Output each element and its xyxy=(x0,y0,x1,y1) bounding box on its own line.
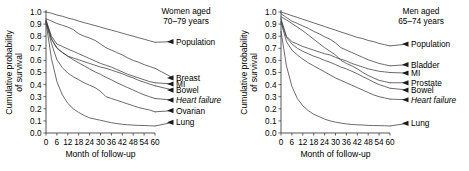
label-arrow-prostate xyxy=(402,80,409,85)
y-tick-label: 0.9 xyxy=(30,20,42,29)
x-tick-label: 36 xyxy=(342,138,352,147)
y-tick-label: 0.2 xyxy=(30,105,42,114)
y-tick-label: 0.7 xyxy=(265,44,277,53)
chart-panel-women: Women aged70–79 years0.00.10.20.30.40.50… xyxy=(0,0,234,171)
x-tick-label: 24 xyxy=(320,138,330,147)
x-tick-label: 12 xyxy=(63,138,73,147)
label-arrow-heart-failure xyxy=(402,97,409,102)
label-arrow-mi xyxy=(167,81,174,86)
survival-curve-heart-failure xyxy=(281,22,390,99)
chart-title-line2: 65–74 years xyxy=(398,16,444,26)
survival-curve-population xyxy=(281,12,390,46)
y-tick-label: 0.6 xyxy=(30,56,42,65)
x-tick-label: 42 xyxy=(353,138,363,147)
x-tick-label: 0 xyxy=(44,138,49,147)
survival-curve-bladder xyxy=(281,14,390,66)
label-arrow-population xyxy=(402,41,409,46)
y-tick-label: 0.5 xyxy=(30,68,42,77)
chart-svg-women: Women aged70–79 years0.00.10.20.30.40.50… xyxy=(0,0,234,171)
series-label-mi: MI xyxy=(411,68,420,78)
y-tick-label: 0.3 xyxy=(265,93,277,102)
x-tick-label: 6 xyxy=(55,138,60,147)
series-label-lung: Lung xyxy=(176,117,195,127)
series-label-lung: Lung xyxy=(411,118,430,128)
y-tick-label: 0.3 xyxy=(30,93,42,102)
x-axis-label: Month of follow-up xyxy=(65,149,135,159)
x-tick-label: 30 xyxy=(96,138,106,147)
series-label-ovarian: Ovarian xyxy=(176,106,205,116)
label-arrow-ovarian xyxy=(167,108,174,113)
label-arrow-lung xyxy=(167,120,174,125)
survival-curve-heart-failure xyxy=(46,20,155,98)
y-tick-label: 0.7 xyxy=(30,44,42,53)
y-axis-label-line2: of survival xyxy=(249,53,259,92)
x-tick-label: 48 xyxy=(129,138,139,147)
x-axis-label: Month of follow-up xyxy=(300,149,370,159)
x-tick-label: 12 xyxy=(298,138,308,147)
series-label-population: Population xyxy=(176,37,216,47)
chart-title-line1: Men aged xyxy=(403,6,440,16)
y-tick-label: 0.0 xyxy=(265,129,277,138)
x-tick-label: 54 xyxy=(140,138,150,147)
survival-curve-lung xyxy=(281,31,390,126)
chart-panel-men: Men aged65–74 years0.00.10.20.30.40.50.6… xyxy=(235,0,469,171)
series-label-population: Population xyxy=(411,39,451,49)
chart-title-line1: Women aged xyxy=(161,6,211,16)
y-tick-label: 0.9 xyxy=(265,20,277,29)
y-tick-label: 1.0 xyxy=(265,8,277,17)
y-tick-label: 1.0 xyxy=(30,8,42,17)
y-tick-label: 0.0 xyxy=(30,129,42,138)
survival-curve-bowel xyxy=(46,22,155,86)
x-tick-label: 36 xyxy=(107,138,117,147)
survival-curves-figure: Women aged70–79 years0.00.10.20.30.40.50… xyxy=(0,0,469,171)
y-axis-label-line2: of survival xyxy=(14,53,24,92)
x-tick-label: 18 xyxy=(74,138,84,147)
survival-curve-population xyxy=(46,12,155,42)
label-arrow-mi xyxy=(402,71,409,76)
y-axis-label-line1: Cumulative probability xyxy=(239,30,249,115)
axis-lines xyxy=(46,10,155,133)
series-label-bowel: Bowel xyxy=(411,85,434,95)
y-tick-label: 0.4 xyxy=(265,81,277,90)
x-tick-label: 30 xyxy=(331,138,341,147)
series-label-bowel: Bowel xyxy=(176,85,199,95)
survival-curve-prostate xyxy=(281,17,390,83)
x-tick-label: 60 xyxy=(150,138,160,147)
chart-title-line2: 70–79 years xyxy=(163,16,209,26)
x-tick-label: 0 xyxy=(279,138,284,147)
label-arrow-bowel xyxy=(402,87,409,92)
x-tick-label: 42 xyxy=(118,138,128,147)
series-label-heart-failure: Heart failure xyxy=(411,95,457,105)
y-axis-label-line1: Cumulative probability xyxy=(4,30,14,115)
chart-svg-men: Men aged65–74 years0.00.10.20.30.40.50.6… xyxy=(235,0,469,171)
x-tick-label: 54 xyxy=(375,138,385,147)
y-tick-label: 0.2 xyxy=(265,105,277,114)
x-tick-label: 60 xyxy=(385,138,395,147)
survival-curve-breast xyxy=(46,19,155,69)
y-tick-label: 0.5 xyxy=(265,68,277,77)
x-tick-label: 18 xyxy=(309,138,319,147)
y-tick-label: 0.8 xyxy=(30,32,42,41)
x-tick-label: 48 xyxy=(364,138,374,147)
label-arrow-heart-failure xyxy=(167,97,174,102)
series-label-heart-failure: Heart failure xyxy=(176,95,222,105)
y-tick-label: 0.6 xyxy=(265,56,277,65)
x-tick-label: 24 xyxy=(85,138,95,147)
survival-curve-mi xyxy=(46,20,155,83)
label-arrow-population xyxy=(167,39,174,44)
axis-lines xyxy=(281,10,390,133)
label-arrow-bladder xyxy=(402,62,409,67)
y-tick-label: 0.4 xyxy=(30,81,42,90)
y-tick-label: 0.1 xyxy=(265,117,277,126)
label-arrow-lung xyxy=(402,121,409,126)
label-leader-line xyxy=(155,68,173,78)
y-tick-label: 0.1 xyxy=(30,117,42,126)
x-tick-label: 6 xyxy=(290,138,295,147)
label-arrow-bowel xyxy=(167,87,174,92)
y-tick-label: 0.8 xyxy=(265,32,277,41)
